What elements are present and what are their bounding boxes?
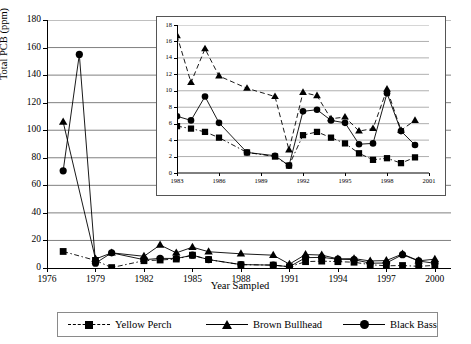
- circle-marker-icon: [360, 320, 369, 329]
- y-tick-label: 120: [11, 98, 41, 108]
- x-tick-label: 1994: [316, 275, 360, 285]
- inset-y-tick: [174, 107, 177, 108]
- x-tick: [192, 268, 193, 272]
- x-tick-label: 1988: [219, 275, 263, 285]
- y-tick: [43, 185, 47, 186]
- inset-plot-canvas: [177, 25, 429, 175]
- inset-y-tick-label: 0: [157, 170, 172, 177]
- legend-label: Yellow Perch: [115, 319, 171, 330]
- y-tick: [43, 240, 47, 241]
- inset-y-tick: [174, 140, 177, 141]
- y-tick-label: 160: [11, 43, 41, 53]
- inset-x-tick-label: 1995: [331, 178, 359, 185]
- inset-y-tick: [174, 157, 177, 158]
- x-tick: [289, 268, 290, 272]
- y-tick: [43, 48, 47, 49]
- inset-x-tick: [429, 173, 430, 176]
- y-tick: [43, 130, 47, 131]
- inset-x-tick: [345, 173, 346, 176]
- inset-y-tick: [174, 124, 177, 125]
- legend-item-yellow-perch[interactable]: Yellow Perch: [68, 313, 171, 336]
- inset-x-tick-label: 1989: [247, 178, 275, 185]
- inset-y-tick-label: 2: [157, 153, 172, 160]
- legend-symbol: [343, 319, 385, 331]
- y-tick: [43, 20, 47, 21]
- inset-y-tick: [174, 91, 177, 92]
- y-tick-label: 60: [11, 180, 41, 190]
- x-tick-label: 1982: [122, 275, 166, 285]
- x-tick-label: 1991: [267, 275, 311, 285]
- x-tick-label: 1985: [170, 275, 214, 285]
- y-tick: [43, 158, 47, 159]
- x-tick: [95, 268, 96, 272]
- y-tick: [43, 213, 47, 214]
- x-tick: [144, 268, 145, 272]
- y-axis-line: [47, 20, 48, 269]
- legend-symbol: [68, 319, 110, 331]
- inset-y-axis-line: [177, 25, 178, 174]
- inset-y-tick-label: 18: [157, 22, 172, 29]
- inset-x-tick-label: 1998: [373, 178, 401, 185]
- x-tick: [386, 268, 387, 272]
- y-axis-label: Total PCB (ppm): [0, 0, 9, 104]
- y-tick: [43, 103, 47, 104]
- y-tick-label: 180: [11, 15, 41, 25]
- y-tick-label: 140: [11, 70, 41, 80]
- inset-x-tick: [177, 173, 178, 176]
- inset-plot-area: 0246810121416181983198619891992199519982…: [156, 16, 446, 196]
- inset-x-tick: [303, 173, 304, 176]
- inset-y-tick: [174, 41, 177, 42]
- inset-y-tick-label: 6: [157, 120, 172, 127]
- x-tick: [435, 268, 436, 272]
- chart-figure: Total PCB (ppm) Year Sampled 02468101214…: [0, 0, 471, 344]
- inset-y-tick-label: 12: [157, 71, 172, 78]
- inset-x-tick-label: 1983: [163, 178, 191, 185]
- inset-x-tick-label: 1986: [205, 178, 233, 185]
- y-tick-label: 0: [11, 263, 41, 273]
- x-tick-label: 1979: [73, 275, 117, 285]
- inset-y-tick: [174, 74, 177, 75]
- inset-x-tick: [261, 173, 262, 176]
- legend-item-black-bass[interactable]: Black Bass: [343, 313, 437, 336]
- legend-symbol: [206, 319, 248, 331]
- inset-y-tick: [174, 58, 177, 59]
- inset-y-tick-label: 8: [157, 104, 172, 111]
- inset-y-tick-label: 14: [157, 54, 172, 61]
- x-axis-line: [47, 268, 451, 269]
- y-tick-label: 40: [11, 208, 41, 218]
- inset-y-tick: [174, 25, 177, 26]
- x-tick: [338, 268, 339, 272]
- inset-y-tick-label: 10: [157, 87, 172, 94]
- y-tick-label: 100: [11, 125, 41, 135]
- y-tick-label: 20: [11, 235, 41, 245]
- x-tick: [241, 268, 242, 272]
- inset-x-tick: [219, 173, 220, 176]
- x-tick-label: 1997: [364, 275, 408, 285]
- y-tick: [43, 75, 47, 76]
- legend-item-brown-bullhead[interactable]: Brown Bullhead: [206, 313, 322, 336]
- inset-x-tick-label: 2001: [415, 178, 443, 185]
- inset-x-tick-label: 1992: [289, 178, 317, 185]
- inset-y-tick-label: 16: [157, 38, 172, 45]
- x-tick-label: 1976: [25, 275, 69, 285]
- legend-label: Brown Bullhead: [253, 319, 322, 330]
- inset-x-tick: [387, 173, 388, 176]
- chart-legend: Yellow PerchBrown BullheadBlack Bass: [57, 312, 438, 337]
- y-tick-label: 80: [11, 153, 41, 163]
- legend-label: Black Bass: [390, 319, 437, 330]
- x-tick: [47, 268, 48, 272]
- x-tick-label: 2000: [413, 275, 457, 285]
- inset-y-tick-label: 4: [157, 137, 172, 144]
- square-marker-icon: [85, 321, 93, 329]
- triangle-marker-icon: [222, 320, 232, 329]
